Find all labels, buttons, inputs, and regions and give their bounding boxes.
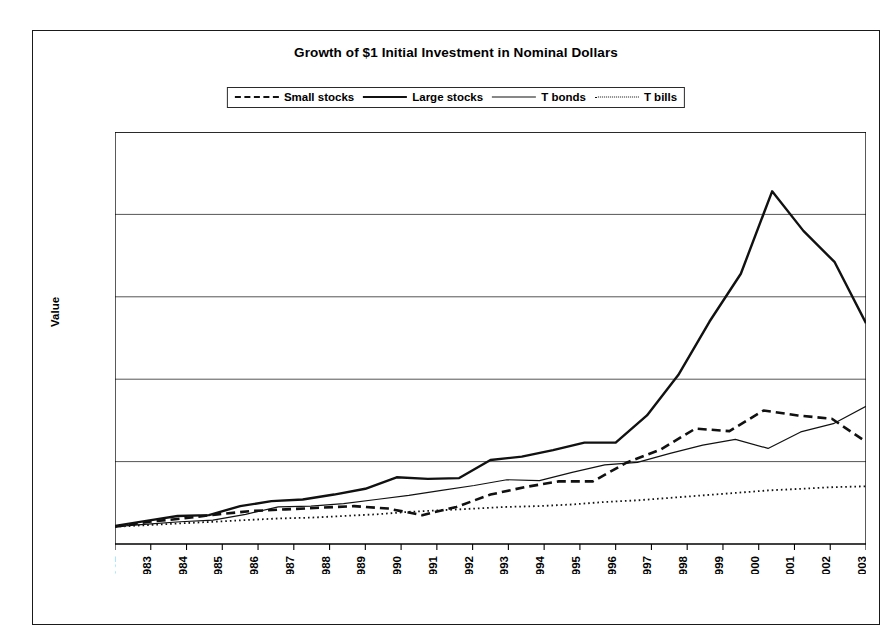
x-axis-tick-label: 1999 bbox=[713, 556, 725, 574]
x-axis-tick-label: 1987 bbox=[284, 556, 296, 574]
x-axis-tick-label: 1990 bbox=[391, 556, 403, 574]
x-axis-tick-label: 2000 bbox=[749, 556, 761, 574]
x-axis-tick-label: 1983 bbox=[141, 556, 153, 574]
x-axis-tick-label: 1989 bbox=[355, 556, 367, 574]
x-axis-tick-label: 2002 bbox=[820, 556, 832, 574]
chart-figure: Growth of $1 Initial Investment in Nomin… bbox=[32, 30, 880, 625]
series-line-large-stocks bbox=[115, 191, 866, 526]
x-axis-tick-label: 1996 bbox=[606, 556, 618, 574]
plot-area: $0.00$5.00$10.00$15.00$20.00$25.00198219… bbox=[115, 132, 866, 574]
x-axis-tick-label: 1995 bbox=[570, 555, 582, 574]
x-axis-tick-label: 1985 bbox=[212, 555, 224, 574]
x-axis-tick-label: 1998 bbox=[677, 555, 689, 574]
y-axis-label: Value bbox=[49, 297, 61, 327]
legend-line-thin-solid-icon bbox=[492, 92, 536, 102]
legend-item-t-bonds: T bonds bbox=[492, 91, 586, 103]
x-axis-tick-label: 1994 bbox=[534, 555, 546, 574]
series-line-t-bills bbox=[115, 486, 866, 526]
legend-label-t-bonds: T bonds bbox=[541, 91, 586, 103]
x-axis-tick-label: 1982 bbox=[115, 556, 117, 574]
x-axis-tick-label: 1997 bbox=[641, 556, 653, 574]
x-axis-tick-label: 1984 bbox=[177, 555, 189, 574]
chart-plot-svg: $0.00$5.00$10.00$15.00$20.00$25.00198219… bbox=[115, 132, 866, 574]
legend-item-t-bills: T bills bbox=[595, 91, 677, 103]
chart-legend: Small stocks Large stocks T bonds T bill… bbox=[227, 87, 685, 108]
x-axis-tick-label: 1988 bbox=[320, 555, 332, 574]
legend-label-t-bills: T bills bbox=[644, 91, 677, 103]
x-axis-tick-label: 1993 bbox=[498, 556, 510, 574]
x-axis-tick-label: 2001 bbox=[784, 555, 796, 574]
x-axis-tick-label: 1991 bbox=[427, 555, 439, 574]
chart-title: Growth of $1 Initial Investment in Nomin… bbox=[33, 45, 879, 60]
legend-line-thick-solid-icon bbox=[363, 92, 407, 102]
legend-line-dotted-icon bbox=[595, 92, 639, 102]
x-axis-tick-label: 2003 bbox=[856, 556, 866, 574]
x-axis-tick-label: 1986 bbox=[248, 556, 260, 574]
legend-label-small-stocks: Small stocks bbox=[284, 91, 354, 103]
legend-line-dashed-icon bbox=[235, 92, 279, 102]
legend-item-large-stocks: Large stocks bbox=[363, 91, 483, 103]
x-axis-tick-label: 1992 bbox=[463, 556, 475, 574]
legend-label-large-stocks: Large stocks bbox=[412, 91, 483, 103]
legend-item-small-stocks: Small stocks bbox=[235, 91, 354, 103]
